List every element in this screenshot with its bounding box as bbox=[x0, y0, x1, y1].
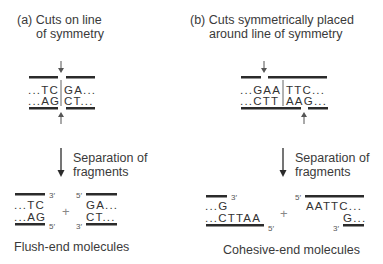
panel-b-frag-right-5prime-label: 5′ bbox=[295, 193, 301, 202]
panel-b-frag-left-3prime-label: 3′ bbox=[231, 193, 237, 202]
panel-b-frag-left-bottom: ...CTTAA bbox=[205, 212, 261, 225]
panel-b-cut-arrow-top-icon bbox=[261, 61, 267, 73]
panel-b-frag-left-top-bar bbox=[206, 195, 227, 198]
panel-b-step-line2: fragments bbox=[295, 165, 351, 179]
panel-b-frag-left-5prime-label: 5′ bbox=[268, 224, 274, 233]
panel-b-frag-right-bottom: G... bbox=[343, 212, 366, 225]
panel-b-bottom-strand-right: AAG... bbox=[286, 95, 327, 108]
panel-b-caption: Cohesive-end molecules bbox=[223, 243, 360, 257]
panel-b-top-strand-left-bar bbox=[241, 76, 261, 79]
panel-b-top-strand-right-bar bbox=[268, 76, 327, 79]
panel-b-plus-sign: + bbox=[280, 207, 288, 220]
panel-b-bottom-strand-left: ...CTT bbox=[240, 95, 279, 108]
panel-b-intact-dna-graphic bbox=[0, 0, 383, 264]
panel-b-step-line1: Separation of bbox=[295, 151, 369, 165]
panel-b-separation-arrow-icon bbox=[280, 148, 287, 177]
panel-b-cut-arrow-bottom-icon bbox=[301, 112, 307, 124]
panel-b-frag-right-top-bar bbox=[305, 195, 364, 198]
panel-b-frag-right-3prime-label: 3′ bbox=[333, 224, 339, 233]
